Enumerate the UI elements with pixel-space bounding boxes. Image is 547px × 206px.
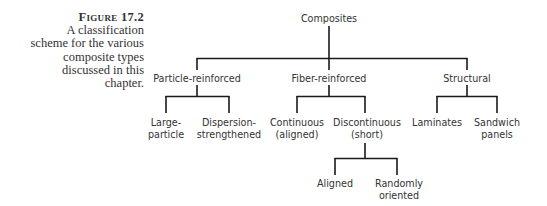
node-sandwich-panels: Sandwich panels xyxy=(474,117,520,140)
node-dispersion-strengthened: Dispersion- strengthened xyxy=(197,117,261,140)
node-label-line: oriented xyxy=(379,190,419,201)
node-label-line: Large- xyxy=(151,117,181,128)
node-continuous: Continuous (aligned) xyxy=(270,117,324,140)
node-label-line: strengthened xyxy=(197,129,261,140)
node-large-particle: Large- particle xyxy=(148,117,184,140)
node-label-line: Sandwich xyxy=(474,117,520,128)
node-label-line: Randomly xyxy=(375,178,423,189)
node-label-line: Discontinuous xyxy=(333,117,401,128)
node-label-line: (aligned) xyxy=(276,129,319,140)
node-structural: Structural xyxy=(443,73,490,84)
node-discontinuous: Discontinuous (short) xyxy=(333,117,401,140)
classification-tree: Composites Particle-reinforced Fiber-rei… xyxy=(0,0,547,206)
node-composites: Composites xyxy=(301,13,357,24)
node-label-line: particle xyxy=(148,129,184,140)
node-label-line: Continuous xyxy=(270,117,324,128)
node-label-line: Aligned xyxy=(317,178,353,189)
node-aligned: Aligned xyxy=(317,178,353,189)
node-label-line: Laminates xyxy=(412,117,462,128)
node-label-line: Dispersion- xyxy=(202,117,256,128)
node-label-line: (short) xyxy=(351,129,383,140)
node-label-line: panels xyxy=(481,129,513,140)
connectors xyxy=(166,26,498,175)
node-laminates: Laminates xyxy=(412,117,462,128)
node-fiber-reinforced: Fiber-reinforced xyxy=(292,73,367,84)
node-particle-reinforced: Particle-reinforced xyxy=(153,73,241,84)
node-randomly-oriented: Randomly oriented xyxy=(375,178,423,201)
